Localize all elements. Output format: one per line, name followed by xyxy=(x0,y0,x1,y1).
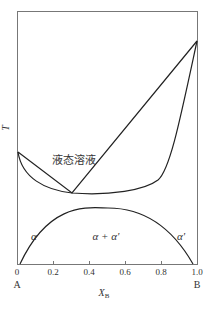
x-tick-0.8: 0.8 xyxy=(155,267,167,277)
solidus-curve xyxy=(18,41,197,194)
x-tick-1.0: 1.0 xyxy=(191,267,203,277)
liquid-region-label: 液态溶液 xyxy=(52,153,96,167)
x-tick-0: 0 xyxy=(15,267,20,277)
x-tick-0.4: 0.4 xyxy=(83,267,95,277)
alpha-prime-region-label: α' xyxy=(177,230,186,242)
alpha-region-label: α xyxy=(31,230,37,242)
component-A-label: A xyxy=(13,279,21,290)
plot-frame xyxy=(18,12,198,265)
component-B-label: B xyxy=(194,279,201,290)
phase-diagram: 0 0.2 0.4 0.6 0.8 1.0 A B XB T 液态溶液 α α … xyxy=(0,0,209,312)
x-axis-title: XB xyxy=(98,287,110,300)
liquidus-curve xyxy=(18,41,197,193)
x-ticks xyxy=(54,261,162,264)
x-tick-0.2: 0.2 xyxy=(47,267,58,277)
x-tick-0.6: 0.6 xyxy=(119,267,131,277)
alpha-plus-alpha-prime-label: α + α' xyxy=(93,230,120,242)
y-axis-title: T xyxy=(0,124,11,131)
